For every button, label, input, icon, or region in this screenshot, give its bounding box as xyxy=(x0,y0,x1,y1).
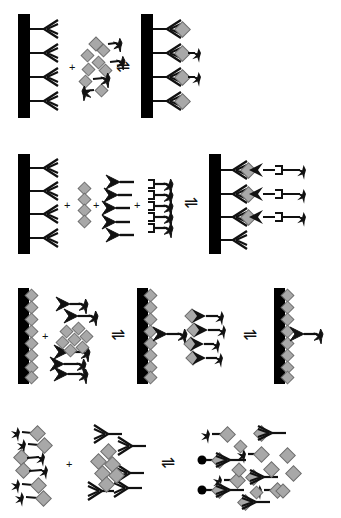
row2-sandwich-plate-group xyxy=(205,150,335,260)
solid-antibody-3 xyxy=(102,201,130,215)
solid-antibody-2 xyxy=(104,188,132,202)
row4-antibody-antigen-mix xyxy=(84,422,156,510)
row3-displaced-complex-mix xyxy=(186,310,242,362)
bound-labeled-antibody xyxy=(290,327,323,344)
equilibrium-arrow-row1: ⇌ xyxy=(116,58,130,75)
solid-support-bar xyxy=(209,154,221,254)
equilibrium-arrow-row3-b: ⇌ xyxy=(243,326,257,343)
bound-complex-1 xyxy=(254,426,286,442)
solid-antibody-4 xyxy=(102,215,130,229)
solid-antibody-1 xyxy=(106,175,134,189)
labeled-antibody-4 xyxy=(50,357,86,374)
bound-complex-1 xyxy=(153,20,190,38)
bound-complex-2 xyxy=(153,44,201,63)
equilibrium-arrow-row4: ⇌ xyxy=(161,454,175,471)
labeled-antibody-2 xyxy=(64,309,98,326)
labeled-antibody-1 xyxy=(56,297,88,314)
plus-sign-row2-a: + xyxy=(64,200,70,211)
row3-coated-plate-1 xyxy=(14,284,44,388)
linker-5 xyxy=(148,223,173,238)
linker-group xyxy=(148,179,173,238)
immunoassay-figure: + ⇌ xyxy=(0,0,341,518)
bound-complex-6 xyxy=(238,495,270,511)
row4-tracer-group xyxy=(14,424,70,510)
unbound-capture-antibody-4 xyxy=(221,231,247,249)
sandwich-complex-3 xyxy=(221,208,306,227)
row3-labeled-antibody-mix xyxy=(50,294,112,382)
displaced-complex-1 xyxy=(185,309,224,326)
capture-antibody-2 xyxy=(30,182,58,200)
plus-sign-row3: + xyxy=(42,331,48,342)
plus-sign-row1: + xyxy=(69,62,75,73)
row3-coated-plate-3 xyxy=(270,284,340,388)
panel-row-4-homogeneous: + xyxy=(0,410,341,518)
row1-right-plate-group xyxy=(137,8,227,132)
bound-complex-3 xyxy=(153,68,201,87)
solid-support-bar xyxy=(18,14,30,118)
capture-antibody-4 xyxy=(30,229,58,247)
sandwich-complex-1 xyxy=(221,161,306,180)
antigen-diamond-group xyxy=(78,182,91,228)
capture-antibody-1 xyxy=(30,20,58,38)
solid-support-bar xyxy=(141,14,153,118)
capture-antibody-4 xyxy=(30,92,58,110)
row2-labeled-linker-column xyxy=(145,178,185,238)
displaced-complex-2 xyxy=(187,323,226,340)
free-tracer-1 xyxy=(201,427,235,444)
sandwich-complex-2 xyxy=(221,185,306,204)
panel-row-2-sandwich: + + xyxy=(0,146,341,266)
outline-antibody-2 xyxy=(118,437,146,455)
plus-sign-row2-c: + xyxy=(134,200,140,211)
displaced-complex-3 xyxy=(184,337,220,354)
bound-complex-4 xyxy=(153,92,190,110)
plus-sign-row2-b: + xyxy=(93,200,99,211)
solid-antibody-5 xyxy=(106,228,134,242)
solid-support-bar xyxy=(18,154,30,254)
panel-row-1-direct-competitive: + ⇌ xyxy=(0,0,341,140)
capture-antibody-1 xyxy=(30,159,58,177)
capture-antibody-2 xyxy=(30,44,58,62)
labeled-antigen-tracer-3 xyxy=(14,450,45,467)
labeled-antigen-tracer-6 xyxy=(15,491,51,507)
labeled-antigen-tracer-5 xyxy=(11,478,46,494)
equilibrium-arrow-row2: ⇌ xyxy=(184,194,198,211)
row1-left-plate-group xyxy=(14,8,74,132)
outline-antibody-1 xyxy=(94,425,122,443)
plus-sign-row4: + xyxy=(66,459,72,470)
labeled-antigen-tracer-1 xyxy=(11,426,45,442)
capture-antibody-3 xyxy=(30,205,58,223)
row4-complex-mixture xyxy=(196,420,336,512)
equilibrium-arrow-row3-a: ⇌ xyxy=(111,326,125,343)
solid-antibody-group xyxy=(102,175,134,242)
capture-antibody-3 xyxy=(30,68,58,86)
panel-row-3-competitive-coated: + xyxy=(0,278,341,394)
bound-labeled-antibody xyxy=(153,327,187,344)
